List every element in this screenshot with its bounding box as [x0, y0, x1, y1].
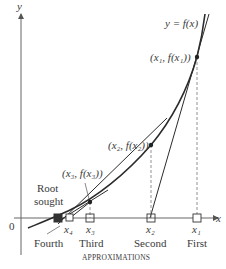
- x-axis-label: x: [215, 212, 221, 224]
- y-axis-label: y: [16, 0, 22, 12]
- point-3: [88, 200, 92, 204]
- tangent-line-3: [57, 190, 108, 222]
- x2-label: x₂: [145, 223, 155, 235]
- approx-fourth: Fourth: [34, 237, 64, 249]
- pointer-x4: [47, 226, 60, 234]
- x1-label: x₁: [191, 223, 201, 235]
- point-1: [195, 55, 199, 59]
- point-2-label: (x₂, f(x₂)): [108, 139, 149, 152]
- point-1-label: (x₁, f(x₁)): [150, 51, 191, 64]
- approx-first: First: [187, 237, 207, 249]
- approx-third: Third: [79, 237, 104, 249]
- curve-label: y = f(x): [164, 17, 198, 30]
- x4-marker: [66, 214, 73, 221]
- x3-label: x₃: [85, 223, 95, 235]
- point-2: [149, 143, 153, 147]
- origin-label: 0: [9, 220, 15, 232]
- point-3-label: (x₃, f(x₃)): [62, 167, 103, 180]
- tangent-line-1: [150, 14, 209, 218]
- root-label-line1: Root: [37, 182, 58, 194]
- approximations-caption: APPROXIMATIONS: [82, 253, 150, 262]
- root-marker: [54, 214, 62, 222]
- x4-label: x₄: [63, 223, 73, 235]
- newton-method-diagram: y x 0 y = f(x) (x₁, f(x₁)) (x₂, f(x₂)) (…: [0, 0, 226, 269]
- root-label-line2: sought: [34, 195, 63, 207]
- x1-marker: [193, 214, 201, 222]
- approx-second: Second: [134, 237, 167, 249]
